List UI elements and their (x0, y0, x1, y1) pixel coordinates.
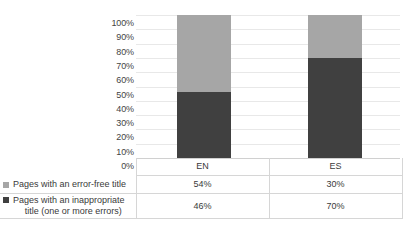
category-label-en: EN (136, 158, 269, 176)
legend-label-inappropriate-line1: Pages with an inappropriate (13, 195, 134, 206)
bar-segment-error-free-es (308, 15, 362, 58)
table-row-categories: EN ES (0, 158, 402, 176)
legend-label-inappropriate: Pages with an inappropriate title (one o… (13, 195, 134, 217)
table-row-inappropriate: Pages with an inappropriate title (one o… (0, 194, 402, 219)
y-axis-tick-80pct: 80% (96, 48, 134, 57)
legend-label-inappropriate-line2: title (one or more errors) (13, 206, 134, 217)
legend-item-error-free: Pages with an error-free title (0, 176, 136, 194)
y-axis-tick-30pct: 30% (96, 119, 134, 128)
y-axis-tick-70pct: 70% (96, 62, 134, 71)
bar-segment-error-free-en (177, 15, 231, 92)
y-axis-tick-labels: 100%90%80%70%60%50%40%30%20%10%0% (96, 9, 134, 159)
y-axis-tick-60pct: 60% (96, 76, 134, 85)
bar-group-es (308, 15, 362, 158)
y-axis-tick-90pct: 90% (96, 33, 134, 42)
value-inappropriate-en: 46% (136, 194, 269, 219)
table-row-error-free: Pages with an error-free title 54% 30% (0, 176, 402, 194)
category-label-es: ES (269, 158, 402, 176)
chart-bars (136, 0, 400, 160)
chart-data-table: EN ES Pages with an error-free title 54%… (0, 158, 409, 218)
legend-swatch-inappropriate-icon (3, 197, 9, 203)
chart-plot-area: 100%90%80%70%60%50%40%30%20%10%0% (0, 0, 409, 160)
bar-group-en (177, 15, 231, 158)
y-axis-tick-10pct: 10% (96, 148, 134, 157)
table-corner-cell (0, 158, 136, 176)
bar-segment-inappropriate-en (177, 92, 231, 158)
legend-swatch-error-free-icon (3, 182, 9, 188)
legend-label-error-free: Pages with an error-free title (13, 179, 134, 190)
bar-segment-inappropriate-es (308, 58, 362, 158)
y-axis-tick-20pct: 20% (96, 133, 134, 142)
value-error-free-es: 30% (269, 176, 402, 194)
y-axis-tick-100pct: 100% (96, 19, 134, 28)
y-axis-tick-40pct: 40% (96, 105, 134, 114)
y-axis-tick-50pct: 50% (96, 91, 134, 100)
value-inappropriate-es: 70% (269, 194, 402, 219)
value-error-free-en: 54% (136, 176, 269, 194)
legend-item-inappropriate: Pages with an inappropriate title (one o… (0, 194, 136, 219)
